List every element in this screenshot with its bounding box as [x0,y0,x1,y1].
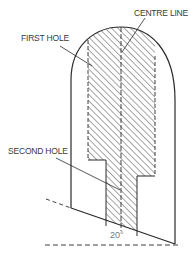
bottom-face-extension [46,199,71,208]
first-hole-leader [60,46,92,66]
second-hole-left-edge [88,160,106,226]
first-hole-hatch [88,20,155,236]
angle-label: 20° [110,230,124,240]
centre-line-label: CENTRE LINE [134,8,188,18]
first-hole-label: FIRST HOLE [21,33,69,43]
second-hole-label: SECOND HOLE [8,146,68,156]
second-hole-right-edge [137,176,155,236]
